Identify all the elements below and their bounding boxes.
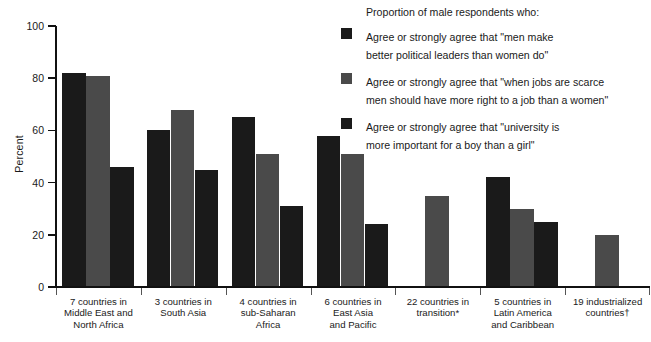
legend-entry: Agree or strongly agree that "university… [341,117,651,153]
bar [280,206,304,287]
category-axis-tick [480,288,481,295]
bar [425,196,449,287]
y-axis-tick-mark [48,130,56,132]
category-axis-tick [226,288,227,295]
legend-entry-label: Agree or strongly agree that "men make b… [366,31,553,61]
bar [486,177,510,287]
y-axis-tick-mark [48,25,56,27]
bar [110,167,134,287]
legend-swatch-icon [341,73,352,84]
category-axis: 7 countries in Middle East and North Afr… [56,288,650,342]
bar [595,235,619,287]
category-axis-label: 5 countries in Latin America and Caribbe… [480,296,565,330]
y-axis-tick-label: 0 [16,282,44,292]
bar [62,73,86,287]
y-axis-tick-label: 80 [16,73,44,83]
bar [195,170,219,287]
category-axis-tick [311,288,312,295]
category-axis-tick [565,288,566,295]
y-axis-tick-mark [48,182,56,184]
category-axis-label: 19 industrialized countries† [565,296,650,319]
legend-entry: Agree or strongly agree that "men make b… [341,27,651,63]
y-axis-tick-label: 20 [16,230,44,240]
bar [317,136,341,287]
bar [534,222,558,287]
y-axis-tick-mark [48,77,56,79]
bar [256,154,280,287]
bar [365,224,389,287]
y-axis-tick-mark [48,234,56,236]
bar [232,117,256,287]
legend-entry-label: Agree or strongly agree that "university… [366,121,559,151]
category-axis-label: 22 countries in transition* [395,296,480,319]
category-axis-tick [56,288,57,295]
legend-entries: Agree or strongly agree that "men make b… [341,27,651,153]
category-axis-label: 4 countries in sub-Saharan Africa [226,296,311,330]
category-axis-label: 6 countries in East Asia and Pacific [311,296,396,330]
legend: Proportion of male respondents who: Agre… [341,6,651,162]
legend-entry: Agree or strongly agree that "when jobs … [341,72,651,108]
y-axis-tick-label: 100 [16,21,44,31]
bar [171,110,195,287]
legend-title: Proportion of male respondents who: [366,6,651,18]
category-axis-tick [649,288,650,295]
category-axis-tick [141,288,142,295]
y-axis-tick-label: 60 [16,125,44,135]
bar-chart: Percent 020406080100 7 countries in Midd… [0,0,651,342]
category-axis-tick [395,288,396,295]
legend-swatch-icon [341,118,352,129]
bar [510,209,534,287]
category-axis-label: 3 countries in South Asia [141,296,226,319]
bar [341,154,365,287]
bar [147,130,171,287]
legend-swatch-icon [341,28,352,39]
category-axis-label: 7 countries in Middle East and North Afr… [56,296,141,330]
legend-entry-label: Agree or strongly agree that "when jobs … [366,76,608,106]
bar [86,76,110,287]
y-axis-tick-label: 40 [16,178,44,188]
